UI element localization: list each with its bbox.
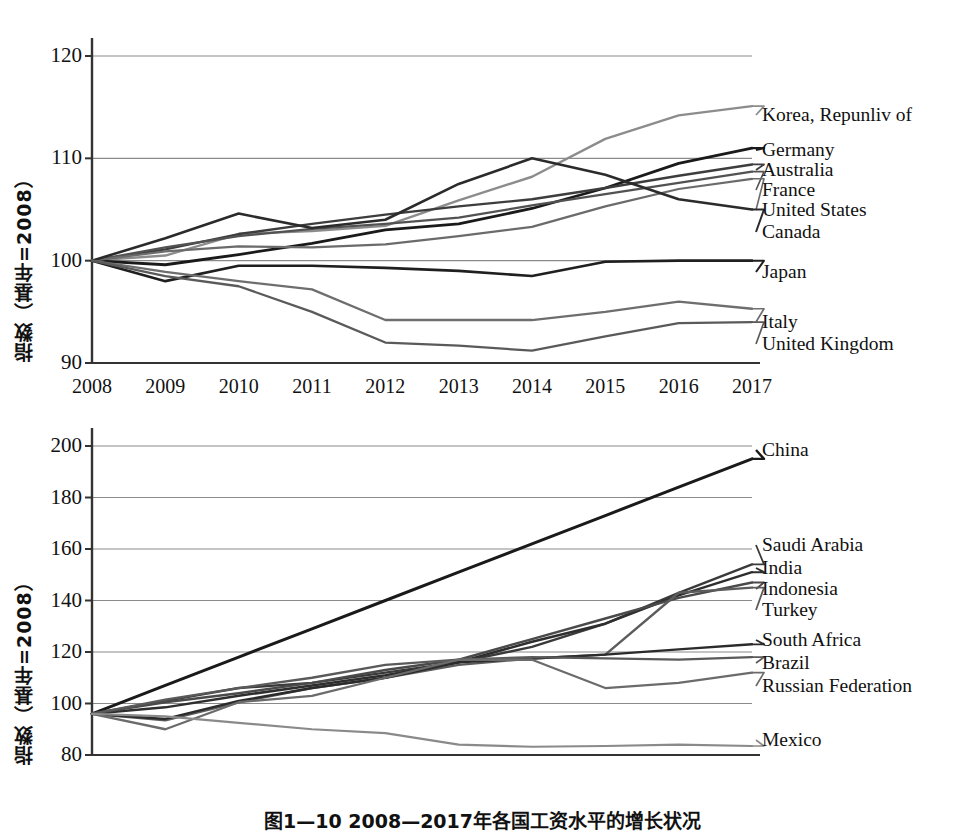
y-tick-label: 120	[51, 641, 83, 662]
x-tick-label: 2013	[439, 376, 479, 396]
legend-item-south-africa[interactable]: South Africa	[762, 630, 861, 650]
legend-item-indonesia[interactable]: Indonesia	[762, 579, 838, 599]
series-line[interactable]	[92, 572, 752, 714]
series-line[interactable]	[92, 106, 752, 261]
y-tick-label: 110	[51, 147, 82, 168]
x-tick-label: 2014	[512, 376, 552, 396]
legend-item-russian-federation[interactable]: Russian Federation	[762, 676, 912, 696]
y-axis-ticks-top: 90100110120	[30, 10, 82, 405]
series-line[interactable]	[92, 261, 752, 281]
legend-item-france[interactable]: France	[762, 180, 815, 200]
x-tick-label: 2016	[659, 376, 699, 396]
figure-container: 指数（基年=2008） 90100110120 2008200920102011…	[0, 0, 965, 835]
x-tick-label: 2012	[365, 376, 405, 396]
legend-item-mexico[interactable]: Mexico	[762, 730, 822, 750]
series-line[interactable]	[92, 588, 752, 721]
x-tick-label: 2008	[72, 376, 112, 396]
legend-item-korea-repunliv-of[interactable]: Korea, Repunliv of	[762, 105, 912, 125]
y-tick-label: 90	[61, 352, 82, 373]
x-tick-label: 2011	[292, 376, 331, 396]
y-tick-label: 100	[51, 250, 83, 271]
y-tick-label: 140	[51, 590, 83, 611]
legend-item-australia[interactable]: Australia	[762, 160, 833, 180]
x-tick-label: 2010	[219, 376, 259, 396]
legend-item-brazil[interactable]: Brazil	[762, 653, 810, 673]
chart-advanced-economies: 指数（基年=2008） 90100110120 2008200920102011…	[0, 10, 965, 405]
y-tick-label: 80	[61, 744, 82, 765]
legend-item-canada[interactable]: Canada	[762, 222, 820, 242]
legend-item-saudi-arabia[interactable]: Saudi Arabia	[762, 535, 863, 555]
x-axis-ticks-top: 2008200920102011201220132014201520162017	[0, 376, 965, 402]
legend-item-italy[interactable]: Italy	[762, 312, 798, 332]
y-tick-label: 200	[51, 435, 83, 456]
chart-emerging-economies: 指数（基年=2008） 80100120140160180200 2008200…	[0, 405, 965, 795]
legend-item-turkey[interactable]: Turkey	[762, 600, 818, 620]
series-line[interactable]	[92, 714, 752, 747]
series-line[interactable]	[92, 582, 752, 713]
legend-item-united-kingdom[interactable]: United Kingdom	[762, 334, 894, 354]
legend-item-united-states[interactable]: United States	[762, 200, 867, 220]
legend-item-india[interactable]: India	[762, 558, 802, 578]
y-axis-ticks-bottom: 80100120140160180200	[30, 405, 82, 795]
x-tick-label: 2017	[732, 376, 772, 396]
y-tick-label: 180	[51, 487, 83, 508]
y-tick-label: 100	[51, 693, 83, 714]
series-line[interactable]	[92, 644, 752, 719]
y-tick-label: 160	[51, 538, 83, 559]
x-tick-label: 2009	[145, 376, 185, 396]
legend-item-germany[interactable]: Germany	[762, 140, 835, 160]
x-tick-label: 2015	[585, 376, 625, 396]
y-tick-label: 120	[51, 45, 83, 66]
legend-item-china[interactable]: China	[762, 440, 809, 460]
figure-caption: 图1—10 2008—2017年各国工资水平的增长状况	[0, 806, 965, 833]
legend-item-japan[interactable]: Japan	[762, 262, 806, 282]
